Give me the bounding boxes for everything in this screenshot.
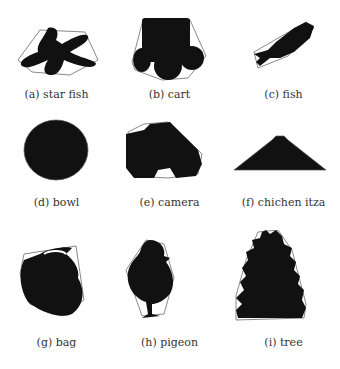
figure-caption-f: (f) chichen itza — [227, 196, 340, 209]
bag-figure — [18, 244, 88, 320]
fish-figure — [250, 20, 320, 72]
figure-caption-a: (a) star fish — [0, 88, 113, 101]
figure-caption-e: (e) camera — [113, 196, 226, 209]
camera-figure — [124, 120, 204, 184]
figure-caption-i: (i) tree — [227, 336, 340, 349]
chichen-itza-figure — [232, 134, 328, 174]
tree-figure — [232, 230, 312, 322]
cart-figure — [130, 16, 210, 84]
figure-caption-h: (h) pigeon — [113, 336, 226, 349]
starfish-figure — [10, 20, 110, 80]
figure-caption-d: (d) bowl — [0, 196, 113, 209]
bowl-figure — [22, 118, 92, 182]
figure-caption-g: (g) bag — [0, 336, 113, 349]
pigeon-figure — [124, 238, 180, 324]
figure-caption-c: (c) fish — [227, 88, 340, 101]
figure-caption-b: (b) cart — [113, 88, 226, 101]
